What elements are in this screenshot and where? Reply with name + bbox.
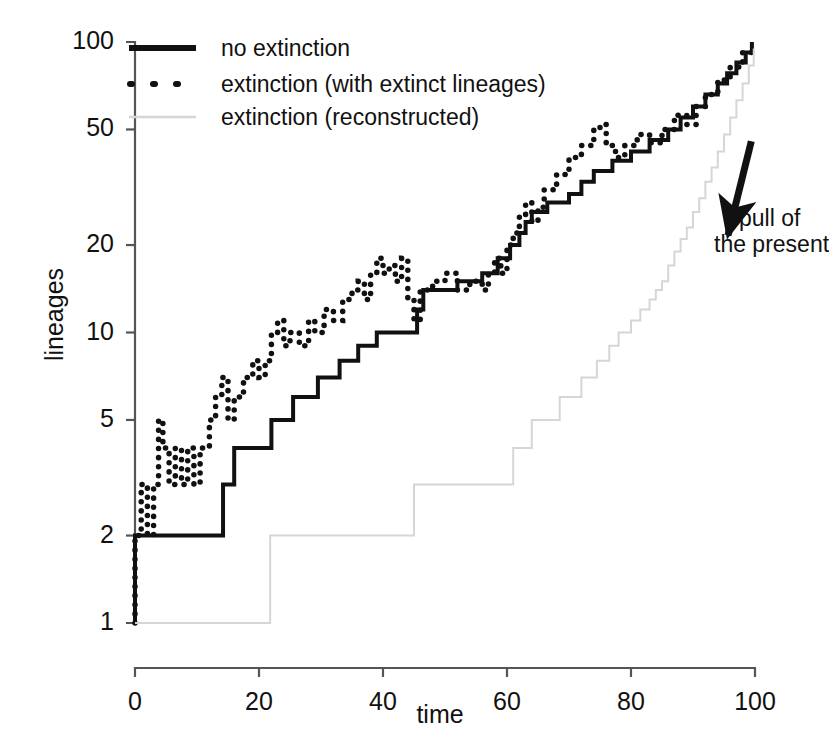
y-axis-label: lineages <box>40 255 69 375</box>
y-tick-label-2: 2 <box>14 520 114 549</box>
y-tick-label-20: 20 <box>14 229 114 258</box>
legend-label-no-extinction: no extinction <box>221 35 350 62</box>
x-tick-label-100: 100 <box>695 687 815 716</box>
annotation-pull-of-the-present-line2: the present <box>714 231 829 258</box>
x-tick-label-40: 40 <box>323 687 443 716</box>
annotation-pull-of-the-present-line1: pull of <box>739 205 800 232</box>
x-tick-label-80: 80 <box>571 687 691 716</box>
x-tick-label-20: 20 <box>199 687 319 716</box>
legend-label-extinction-with-extinct: extinction (with extinct lineages) <box>221 71 546 98</box>
y-tick-label-100: 100 <box>14 26 114 55</box>
series-line-1 <box>135 45 752 623</box>
legend-swatches <box>129 48 196 117</box>
y-tick-label-10: 10 <box>14 317 114 346</box>
y-tick-label-50: 50 <box>14 113 114 142</box>
x-tick-label-0: 0 <box>75 687 195 716</box>
legend-label-extinction-reconstructed: extinction (reconstructed) <box>221 104 479 131</box>
x-axis <box>135 668 755 677</box>
y-tick-label-1: 1 <box>14 607 114 636</box>
y-tick-label-5: 5 <box>14 404 114 433</box>
x-tick-label-60: 60 <box>447 687 567 716</box>
